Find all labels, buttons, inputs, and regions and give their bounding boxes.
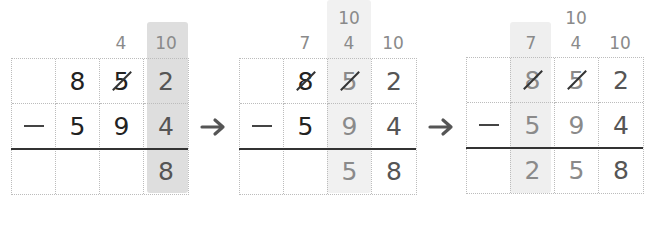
subtraction-step-1: 4 10 8 5 2 5 9 4 8	[0, 0, 200, 227]
cell	[467, 148, 511, 193]
digit-tens: 9	[328, 104, 372, 149]
carry-tens-upper: 10	[554, 8, 598, 28]
result-ones: 8	[599, 148, 643, 193]
minus-sign-cell	[12, 104, 56, 149]
carry-ones: 10	[598, 33, 642, 53]
carry-ones: 10	[371, 33, 415, 53]
minus-icon	[252, 125, 272, 127]
cell	[467, 58, 511, 103]
subtraction-grid: 8 5 2 5 9 4 5 8	[239, 58, 417, 195]
digit-hundreds: 8	[56, 59, 100, 104]
sum-line	[239, 148, 416, 150]
digit-hundreds-struck: 8	[284, 59, 328, 104]
subtraction-step-2: 7 10 4 10 8 5 2 5 9 4 5 8	[228, 0, 428, 227]
digit-tens-struck: 5	[100, 59, 144, 104]
carry-tens: 4	[99, 33, 143, 53]
cell	[240, 59, 284, 104]
cell	[12, 59, 56, 104]
carry-hundreds: 7	[509, 33, 553, 53]
carry-tens: 4	[554, 33, 598, 53]
digit-hundreds: 5	[511, 103, 555, 148]
result-tens: 5	[555, 148, 599, 193]
digit-tens: 9	[555, 103, 599, 148]
digit-ones: 4	[372, 104, 416, 149]
cell	[284, 149, 328, 194]
digit-ones: 2	[599, 58, 643, 103]
digit-tens-struck: 5	[328, 59, 372, 104]
digit-ones: 4	[144, 104, 188, 149]
cell	[12, 149, 56, 194]
digit-hundreds: 5	[56, 104, 100, 149]
carry-ones: 10	[144, 33, 188, 53]
subtraction-grid: 8 5 2 5 9 4 2 5 8	[466, 57, 644, 194]
result-tens: 5	[328, 149, 372, 194]
right-arrow-icon	[200, 117, 227, 137]
minus-icon	[479, 124, 499, 126]
digit-hundreds: 5	[284, 104, 328, 149]
subtraction-grid: 8 5 2 5 9 4 8	[11, 58, 189, 195]
minus-sign-cell	[240, 104, 284, 149]
carry-tens-upper: 10	[327, 8, 371, 28]
digit-ones: 2	[372, 59, 416, 104]
minus-icon	[24, 125, 44, 127]
digit-tens: 9	[100, 104, 144, 149]
sum-line	[466, 147, 643, 149]
result-hundreds: 2	[511, 148, 555, 193]
digit-hundreds-struck: 8	[511, 58, 555, 103]
digit-ones: 4	[599, 103, 643, 148]
cell	[240, 149, 284, 194]
minus-sign-cell	[467, 103, 511, 148]
result-ones: 8	[144, 149, 188, 194]
digit-ones: 2	[144, 59, 188, 104]
digit-tens-struck: 5	[555, 58, 599, 103]
carry-hundreds: 7	[283, 33, 327, 53]
subtraction-step-3: 7 10 4 10 8 5 2 5 9 4 2 5 8	[455, 0, 651, 227]
cell	[56, 149, 100, 194]
sum-line	[11, 148, 188, 150]
right-arrow-icon	[428, 117, 455, 137]
carry-tens: 4	[327, 33, 371, 53]
cell	[100, 149, 144, 194]
result-ones: 8	[372, 149, 416, 194]
